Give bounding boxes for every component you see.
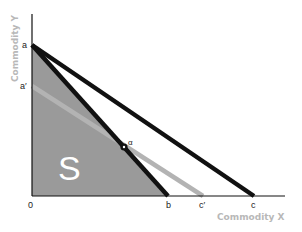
point-label-c-prime: c′ — [199, 200, 206, 210]
point-label-a-prime: a′ — [20, 81, 27, 91]
point-label-a: a — [22, 40, 27, 50]
y-axis-title: Commodity Y — [10, 14, 20, 82]
point-label-alpha: α — [128, 138, 133, 147]
alpha-point-center — [123, 146, 125, 148]
origin-label: 0 — [28, 200, 33, 210]
point-label-c: c — [251, 200, 256, 210]
diagram-canvas: a a′ 0 b c′ c α S Commodity X Commodity … — [0, 0, 302, 232]
region-label-s: S — [58, 149, 81, 187]
x-axis-title: Commodity X — [217, 212, 285, 222]
point-label-b: b — [166, 200, 171, 210]
